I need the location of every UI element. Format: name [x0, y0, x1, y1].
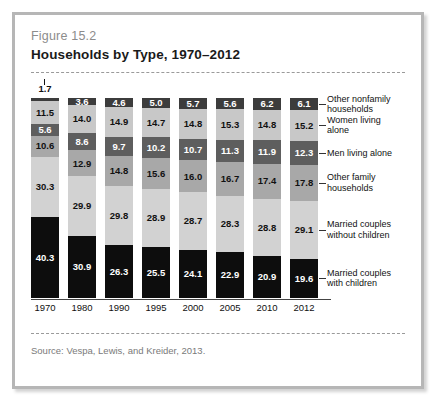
- bar-segment: 5.0: [142, 98, 170, 108]
- bar-segment: 11.9: [253, 140, 281, 164]
- bar-segment: 5.6: [31, 124, 59, 135]
- bar-segment: 10.6: [31, 136, 59, 157]
- bar-segment-value: 5.6: [38, 125, 51, 135]
- bar-segment-callout-value: 1.7: [31, 83, 59, 94]
- x-axis-label-1980: 1980: [68, 302, 96, 313]
- bar-segment: 12.9: [68, 150, 96, 176]
- bar-segment-value: 14.8: [258, 120, 277, 130]
- bar-segment-value: 10.7: [184, 145, 203, 155]
- bar-segment-value: 29.9: [73, 201, 92, 211]
- bar-segment-value: 22.9: [221, 270, 240, 280]
- legend-leader-line: [319, 230, 326, 231]
- chart-legend: Other nonfamilyhouseholdsWomen livingalo…: [327, 98, 413, 298]
- bar-segment-value: 15.2: [295, 121, 314, 131]
- bar-segment-value: 11.5: [36, 108, 54, 118]
- legend-label-continued: alone: [327, 125, 381, 136]
- bar-segment: 30.3: [31, 157, 59, 218]
- legend-label: Married couples: [327, 219, 391, 230]
- bar-column-1995: 5.014.710.215.628.925.5: [142, 98, 170, 298]
- source-note: Source: Vespa, Lewis, and Kreider, 2013.: [31, 345, 205, 356]
- bar-segment-value: 25.5: [147, 268, 166, 278]
- bar-segment: 14.8: [179, 109, 207, 139]
- bar-segment-value: 12.9: [73, 159, 92, 169]
- bar-segment-value: 28.8: [258, 223, 277, 233]
- bar-column-2012: 6.115.212.317.829.119.6: [290, 98, 318, 298]
- legend-label: Women living: [327, 115, 381, 126]
- bar-segment-value: 28.9: [147, 213, 166, 223]
- bar-segment: 17.8: [290, 165, 318, 201]
- bar-segment-value: 10.6: [36, 141, 55, 151]
- bar-segment-value: 11.3: [221, 146, 239, 156]
- bar-segment-value: 28.3: [221, 219, 240, 229]
- legend-entry: Married coupleswith children: [327, 268, 391, 289]
- bar-segment-value: 9.7: [112, 142, 125, 152]
- bar-segment-value: 14.0: [73, 114, 92, 124]
- legend-leader-line: [319, 125, 326, 126]
- bar-segment: 15.6: [142, 158, 170, 189]
- bar-segment: 28.3: [216, 196, 244, 253]
- bar-segment-value: 26.3: [110, 267, 129, 277]
- legend-label-continued: without children: [327, 230, 391, 241]
- bar-segment-value: 3.6: [75, 98, 88, 105]
- x-axis-label-1995: 1995: [142, 302, 170, 313]
- bar-segment-value: 6.1: [297, 99, 310, 109]
- bar-segment-value: 16.0: [184, 172, 203, 182]
- bar-segment-value: 40.3: [36, 253, 55, 263]
- bar-segment-value: 12.3: [295, 148, 314, 158]
- bar-column-2000: 5.714.810.716.028.724.1: [179, 98, 207, 298]
- callout-leader-line: [44, 79, 45, 85]
- bar-segment-value: 14.8: [184, 119, 203, 129]
- bar-segment: 15.2: [290, 110, 318, 140]
- bar-segment-value: 24.1: [184, 269, 203, 279]
- legend-label-continued: with children: [327, 278, 391, 289]
- legend-leader-line: [319, 104, 326, 105]
- bar-segment-value: 15.3: [221, 120, 240, 130]
- legend-leader-line: [319, 278, 326, 279]
- source-divider: [31, 333, 405, 334]
- bar-segment: 30.9: [68, 236, 96, 298]
- bar-segment: 3.6: [68, 98, 96, 105]
- bar-segment: 14.8: [253, 110, 281, 140]
- bar-segment: 17.4: [253, 164, 281, 199]
- legend-leader-line: [319, 183, 326, 184]
- bar-segment: 16.0: [179, 160, 207, 192]
- bar-segment: 20.9: [253, 256, 281, 298]
- bar-column-2005: 5.615.311.316.728.322.9: [216, 98, 244, 298]
- bar-segment: 6.2: [253, 98, 281, 110]
- bar-segment: 29.9: [68, 176, 96, 236]
- bar-segment-value: 15.6: [147, 169, 166, 179]
- bar-segment-value: 14.8: [110, 166, 129, 176]
- bar-segment: 9.7: [105, 137, 133, 156]
- bar-segment-value: 17.8: [295, 178, 314, 188]
- bar-segment: 15.3: [216, 109, 244, 140]
- bar-segment: 25.5: [142, 247, 170, 298]
- bar-segment: 40.3: [31, 217, 59, 298]
- bar-segment: 10.7: [179, 139, 207, 160]
- bar-segment-value: 5.6: [223, 99, 236, 109]
- bar-segment-value: 10.2: [147, 143, 166, 153]
- x-axis-tick-labels: 19701980199019952000200520102012: [31, 302, 323, 313]
- bar-segment-value: 11.9: [258, 147, 276, 157]
- x-axis-label-1990: 1990: [105, 302, 133, 313]
- bar-segment-value: 14.9: [110, 117, 129, 127]
- bar-segment: 14.9: [105, 107, 133, 137]
- bar-segment: 29.1: [290, 201, 318, 259]
- legend-label-continued: households: [327, 104, 391, 115]
- bar-segment: 28.8: [253, 199, 281, 257]
- bar-segment: 28.9: [142, 189, 170, 247]
- figure-card: Figure 15.2 Households by Type, 1970–201…: [12, 12, 424, 389]
- bar-segment: 5.6: [216, 98, 244, 109]
- legend-entry: Other familyhouseholds: [327, 172, 376, 193]
- x-axis-label-2005: 2005: [216, 302, 244, 313]
- bar-column-2010: 6.214.811.917.428.820.9: [253, 98, 281, 298]
- legend-label-continued: households: [327, 183, 376, 194]
- legend-label: Other nonfamily: [327, 94, 391, 105]
- bar-segment-value: 20.9: [258, 272, 277, 282]
- bar-segment: 4.6: [105, 98, 133, 107]
- stacked-bars-group: 11.55.610.630.340.31.73.614.08.612.929.9…: [31, 98, 323, 298]
- bar-segment: 14.7: [142, 108, 170, 137]
- bar-segment: 24.1: [179, 250, 207, 298]
- legend-entry: Women livingalone: [327, 115, 381, 136]
- bar-segment: 28.7: [179, 192, 207, 249]
- bar-segment: 8.6: [68, 133, 96, 150]
